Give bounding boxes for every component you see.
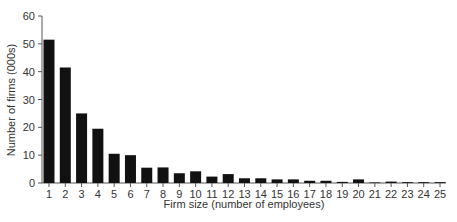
x-tick-label: 3: [79, 188, 85, 200]
x-tick-label: 1: [46, 188, 52, 200]
bar: [255, 178, 266, 183]
y-axis: 0102030405060: [23, 10, 42, 189]
x-tick-label: 5: [111, 188, 117, 200]
y-tick-label: 40: [23, 66, 35, 78]
bar: [109, 154, 120, 183]
x-tick-label: 4: [95, 188, 101, 200]
x-tick-label: 6: [127, 188, 133, 200]
bars: [44, 40, 446, 183]
bar: [369, 182, 380, 183]
bar: [288, 179, 299, 183]
chart-canvas: 0102030405060 12345678910111213141516171…: [0, 0, 457, 222]
x-tick-label: 23: [401, 188, 413, 200]
y-tick-label: 60: [23, 10, 35, 22]
x-tick-label: 2: [62, 188, 68, 200]
x-tick-label: 19: [336, 188, 348, 200]
y-axis-label: Number of firms (000s): [5, 44, 17, 156]
x-axis-label: Firm size (number of employees): [164, 198, 325, 210]
bar: [353, 179, 364, 183]
bar: [272, 179, 283, 183]
bar: [337, 182, 348, 183]
bar: [190, 171, 201, 183]
bar: [92, 129, 103, 183]
bar: [435, 182, 446, 183]
y-tick-label: 10: [23, 149, 35, 161]
bar: [223, 174, 234, 183]
y-tick-label: 50: [23, 38, 35, 50]
y-tick-label: 0: [29, 177, 35, 189]
bar: [44, 40, 55, 183]
x-tick-label: 22: [385, 188, 397, 200]
bar: [386, 182, 397, 183]
x-tick-label: 20: [352, 188, 364, 200]
bar: [141, 168, 152, 183]
bar: [158, 167, 169, 183]
x-tick-label: 24: [418, 188, 430, 200]
bar: [320, 181, 331, 183]
bar: [402, 182, 413, 183]
bar: [174, 173, 185, 183]
x-tick-label: 25: [434, 188, 446, 200]
bar: [76, 113, 87, 183]
bar: [304, 181, 315, 183]
y-tick-label: 20: [23, 121, 35, 133]
bar: [239, 178, 250, 183]
bar-chart: 0102030405060 12345678910111213141516171…: [0, 0, 457, 222]
bar: [125, 155, 136, 183]
bar: [418, 182, 429, 183]
x-tick-label: 21: [369, 188, 381, 200]
y-tick-label: 30: [23, 94, 35, 106]
x-tick-label: 7: [144, 188, 150, 200]
bar: [206, 177, 217, 183]
bar: [60, 67, 71, 183]
